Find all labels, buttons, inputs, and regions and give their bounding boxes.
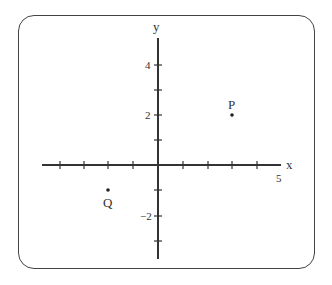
y-axis-label: y bbox=[153, 19, 160, 34]
y-tick-label-2: 2 bbox=[145, 109, 151, 121]
point-q-label: Q bbox=[103, 195, 113, 210]
x-tick-label-5: 5 bbox=[276, 172, 282, 184]
point-p bbox=[230, 113, 234, 117]
point-q bbox=[106, 188, 110, 192]
x-axis-label: x bbox=[286, 157, 293, 172]
coordinate-plane: x y 5 4 2 −2 P Q bbox=[0, 0, 332, 285]
y-tick-label-neg2: −2 bbox=[140, 210, 152, 222]
point-p-label: P bbox=[228, 97, 235, 112]
y-tick-label-4: 4 bbox=[145, 59, 151, 71]
